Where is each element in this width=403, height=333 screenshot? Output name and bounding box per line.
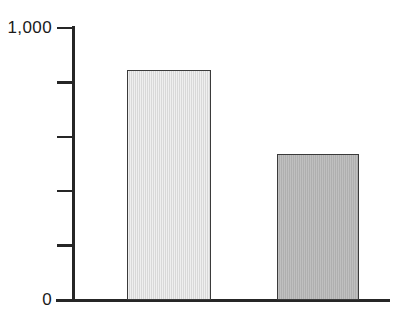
y-axis-tick-800 — [57, 81, 73, 84]
bar-chart-figure: 01,000 — [0, 0, 403, 333]
y-axis-label-slot-0: 0 — [0, 291, 52, 309]
bar-2[interactable] — [277, 154, 359, 300]
y-axis-tick-400 — [57, 190, 73, 193]
y-axis-tick-label-1000: 1,000 — [7, 19, 52, 36]
y-axis-tick-1000 — [57, 27, 73, 30]
y-axis-label-slot-1000: 1,000 — [0, 19, 52, 37]
y-axis-tick-0 — [57, 299, 73, 302]
bar-1[interactable] — [127, 70, 211, 300]
y-axis-tick-200 — [57, 244, 73, 247]
plot-area — [74, 28, 390, 300]
y-axis-tick-label-0: 0 — [42, 291, 52, 308]
y-axis-tick-600 — [57, 136, 73, 139]
